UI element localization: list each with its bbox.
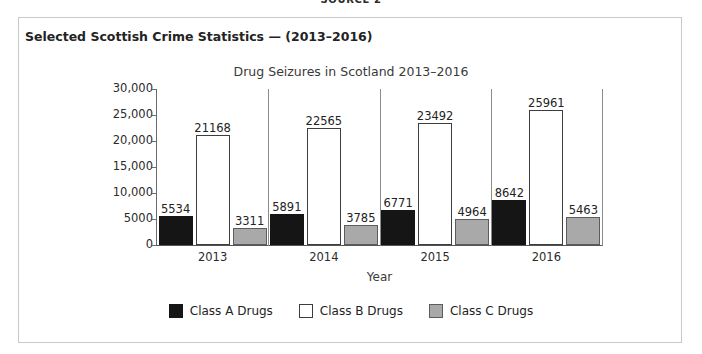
bar-value-label: 5463: [569, 205, 598, 217]
legend-item[interactable]: Class B Drugs: [299, 304, 403, 318]
y-tick-label: 20,000: [113, 135, 153, 147]
legend-label: Class C Drugs: [450, 304, 533, 318]
bar-value-label: 22565: [306, 116, 343, 128]
x-tick-label: 2014: [309, 250, 338, 264]
legend-label: Class A Drugs: [190, 304, 273, 318]
y-tick-label: 30,000: [113, 83, 153, 95]
y-tick-label: 15,000: [113, 161, 153, 173]
chart-legend: Class A DrugsClass B DrugsClass C Drugs: [19, 304, 683, 318]
bar-value-label: 23492: [417, 111, 454, 123]
legend-swatch-icon: [299, 304, 313, 318]
y-tick-label: 25,000: [113, 109, 153, 121]
y-tick-mark: [152, 219, 156, 220]
bar-group: 6771234924964: [380, 89, 491, 245]
bar-value-label: 6771: [383, 198, 412, 210]
bar-value-label: 25961: [528, 98, 565, 110]
y-tick-mark: [152, 141, 156, 142]
y-tick-mark: [152, 193, 156, 194]
source-label: SOURCE 2: [0, 0, 702, 7]
bar[interactable]: 5891: [270, 214, 304, 245]
bar[interactable]: 5534: [159, 216, 193, 245]
bar[interactable]: 22565: [307, 128, 341, 245]
legend-swatch-icon: [429, 304, 443, 318]
bar-value-label: 3785: [346, 213, 375, 225]
bar-value-label: 21168: [194, 123, 231, 135]
bar-value-label: 5891: [272, 202, 301, 214]
legend-item[interactable]: Class C Drugs: [429, 304, 533, 318]
bar-group: 8642259615463: [491, 89, 602, 245]
bar[interactable]: 3785: [344, 225, 378, 245]
bar-value-label: 3311: [235, 216, 264, 228]
legend-label: Class B Drugs: [320, 304, 403, 318]
x-tick-label: 2016: [532, 250, 561, 264]
x-axis-labels: 2013201420152016: [157, 250, 602, 268]
group-separator-line: [602, 89, 603, 246]
bar[interactable]: 25961: [529, 110, 563, 245]
x-tick-label: 2013: [198, 250, 227, 264]
legend-item[interactable]: Class A Drugs: [169, 304, 273, 318]
y-tick-label: 5000: [124, 213, 153, 225]
statistics-card: Selected Scottish Crime Statistics — (20…: [18, 17, 682, 343]
bar-group: 5534211683311: [157, 89, 268, 245]
y-axis-labels: 30,00025,00020,00015,00010,00050000: [91, 89, 153, 245]
bar[interactable]: 4964: [455, 219, 489, 245]
bar[interactable]: 23492: [418, 123, 452, 245]
bar[interactable]: 5463: [566, 217, 600, 245]
bar[interactable]: 21168: [196, 135, 230, 245]
bars-container: 5534211683311589122565378567712349249648…: [157, 89, 602, 245]
x-axis-title: Year: [157, 270, 602, 284]
bar[interactable]: 3311: [233, 228, 267, 245]
legend-swatch-icon: [169, 304, 183, 318]
y-tick-mark: [152, 167, 156, 168]
x-tick-label: 2015: [420, 250, 449, 264]
bar[interactable]: 6771: [381, 210, 415, 245]
bar-value-label: 5534: [161, 204, 190, 216]
y-tick-mark: [152, 115, 156, 116]
bar-value-label: 4964: [457, 207, 486, 219]
bar-value-label: 8642: [495, 188, 524, 200]
y-tick-mark: [152, 89, 156, 90]
bar-group: 5891225653785: [268, 89, 379, 245]
bar[interactable]: 8642: [492, 200, 526, 245]
chart-plot-area: 30,00025,00020,00015,00010,00050000 5534…: [19, 18, 683, 344]
y-tick-label: 10,000: [113, 187, 153, 199]
